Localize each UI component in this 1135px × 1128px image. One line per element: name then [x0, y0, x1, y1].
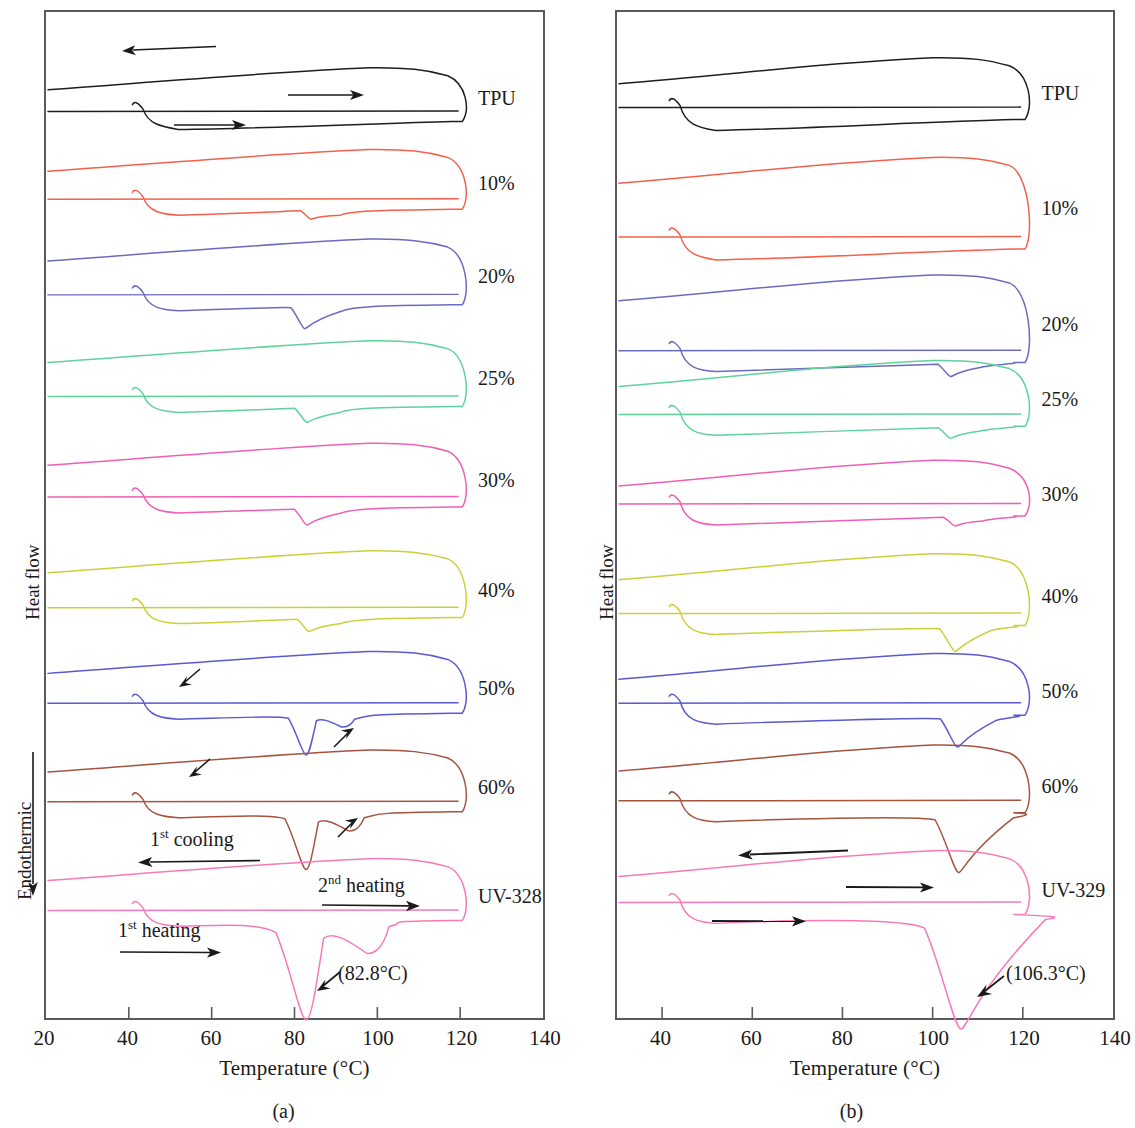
- curve-40-: [619, 554, 1030, 652]
- panel-caption-a: (a): [0, 1100, 567, 1123]
- curve-25-: [619, 361, 1030, 439]
- curve-label-20-: 20%: [1041, 313, 1078, 336]
- panel-a: 20406080100120140 Temperature (°C) Heat …: [0, 0, 567, 1128]
- curve-trace-30-: [619, 460, 1030, 526]
- curve-60-: [48, 750, 466, 870]
- x-tick-20: 20: [34, 1026, 55, 1051]
- peak-temperature-label-b: (106.3°C): [1006, 962, 1086, 985]
- x-tick-40: 40: [650, 1026, 671, 1051]
- peak-callout-arrow-b: [976, 974, 1006, 1000]
- curve-label-30-: 30%: [478, 469, 515, 492]
- x-tick-60: 60: [741, 1026, 762, 1051]
- x-tick-120: 120: [446, 1026, 478, 1051]
- tpu-cooling-arrow-a: [122, 44, 218, 58]
- x-tick-120: 120: [1008, 1026, 1040, 1051]
- curve-label-60-: 60%: [478, 776, 515, 799]
- peak-temperature-label-a: (82.8°C): [338, 962, 408, 985]
- plot-area-a: [44, 10, 545, 1020]
- curve-10-: [48, 149, 466, 219]
- panel-b: 406080100120140 Temperature (°C) Heat fl…: [568, 0, 1135, 1128]
- curve-trace-tpu: [619, 58, 1030, 131]
- curves-canvas-b: [617, 12, 1113, 1018]
- curve-label-50-: 50%: [478, 677, 515, 700]
- x-tick-100: 100: [362, 1026, 394, 1051]
- x-tick-60: 60: [201, 1026, 222, 1051]
- curve-30-: [619, 460, 1030, 526]
- first-cooling-arrow-a: [138, 855, 263, 869]
- curve-label-tpu: TPU: [1041, 82, 1079, 105]
- curve-20-: [619, 275, 1030, 377]
- first-heating-arrow-a: [120, 946, 224, 960]
- curve-label-60-: 60%: [1041, 775, 1078, 798]
- x-tick-140: 140: [1099, 1026, 1131, 1051]
- plot-area-b: [615, 10, 1115, 1020]
- curves-canvas-a: [46, 12, 543, 1018]
- curve-20-: [48, 239, 466, 329]
- panel-caption-b: (b): [568, 1100, 1135, 1123]
- curve-trace-40-: [48, 551, 466, 632]
- x-tick-80: 80: [832, 1026, 853, 1051]
- curve-label-25-: 25%: [1041, 388, 1078, 411]
- inline-arrow-60-a: [188, 758, 212, 780]
- x-tick-100: 100: [917, 1026, 949, 1051]
- inline-arrow-50-a: [178, 668, 202, 690]
- curve-trace-50-: [619, 653, 1030, 747]
- peak-callout-arrow-a: [316, 970, 342, 994]
- curve-50-: [48, 651, 466, 755]
- curve-trace-uv-329: [619, 851, 1055, 1029]
- curve-trace-20-: [619, 275, 1030, 377]
- curve-tpu: [48, 68, 466, 130]
- uv329-second-heating-arrow-b: [846, 881, 938, 895]
- uv329-first-heating-arrow-b: [712, 915, 810, 929]
- curve-uv-329: [619, 851, 1055, 1029]
- curve-trace-10-: [619, 157, 1030, 260]
- curve-label-25-: 25%: [478, 367, 515, 390]
- inline-arrow-60-peak-a: [336, 818, 360, 840]
- tpu-heating-arrow-upper-a: [288, 89, 366, 103]
- curve-trace-20-: [48, 239, 466, 329]
- curve-trace-25-: [619, 361, 1030, 439]
- curve-label-20-: 20%: [478, 265, 515, 288]
- curve-trace-50-: [48, 651, 466, 755]
- curve-tpu: [619, 58, 1030, 131]
- figure-dsc-thermograms: 20406080100120140 Temperature (°C) Heat …: [0, 0, 1135, 1128]
- curve-label-40-: 40%: [1041, 585, 1078, 608]
- x-tick-140: 140: [529, 1026, 561, 1051]
- curve-label-uv-329: UV-329: [1041, 879, 1105, 902]
- x-axis-label-a: Temperature (°C): [44, 1056, 545, 1081]
- curve-10-: [619, 157, 1030, 260]
- second-heating-arrow-a: [322, 899, 422, 913]
- curve-label-10-: 10%: [1041, 197, 1078, 220]
- curve-trace-60-: [48, 750, 466, 870]
- x-tick-40: 40: [117, 1026, 138, 1051]
- uv329-cooling-arrow-b: [738, 848, 852, 862]
- annotation-second-heating-a: 2nd heating: [318, 872, 405, 897]
- curve-trace-10-: [48, 149, 466, 219]
- curve-trace-40-: [619, 554, 1030, 652]
- curve-25-: [48, 341, 466, 423]
- curve-trace-tpu: [48, 68, 466, 130]
- curve-trace-30-: [48, 443, 466, 525]
- annotation-first-cooling-a: 1st cooling: [150, 826, 234, 851]
- curve-trace-25-: [48, 341, 466, 423]
- endothermic-arrow-a: [24, 752, 42, 900]
- curve-label-uv-328: UV-328: [478, 885, 542, 908]
- inline-arrow-50-peak-a: [332, 728, 356, 750]
- curve-label-tpu: TPU: [478, 87, 516, 110]
- curve-40-: [48, 551, 466, 632]
- annotation-first-heating-a: 1st heating: [118, 917, 201, 942]
- curve-label-40-: 40%: [478, 579, 515, 602]
- x-tick-80: 80: [284, 1026, 305, 1051]
- tpu-heating-arrow-lower-a: [174, 119, 248, 133]
- curve-30-: [48, 443, 466, 525]
- curve-50-: [619, 653, 1030, 747]
- curve-label-50-: 50%: [1041, 680, 1078, 703]
- y-axis-label-a: Heat flow: [22, 545, 44, 620]
- curve-label-30-: 30%: [1041, 483, 1078, 506]
- y-axis-label-b: Heat flow: [596, 545, 618, 620]
- curve-label-10-: 10%: [478, 172, 515, 195]
- x-axis-label-b: Temperature (°C): [615, 1056, 1115, 1081]
